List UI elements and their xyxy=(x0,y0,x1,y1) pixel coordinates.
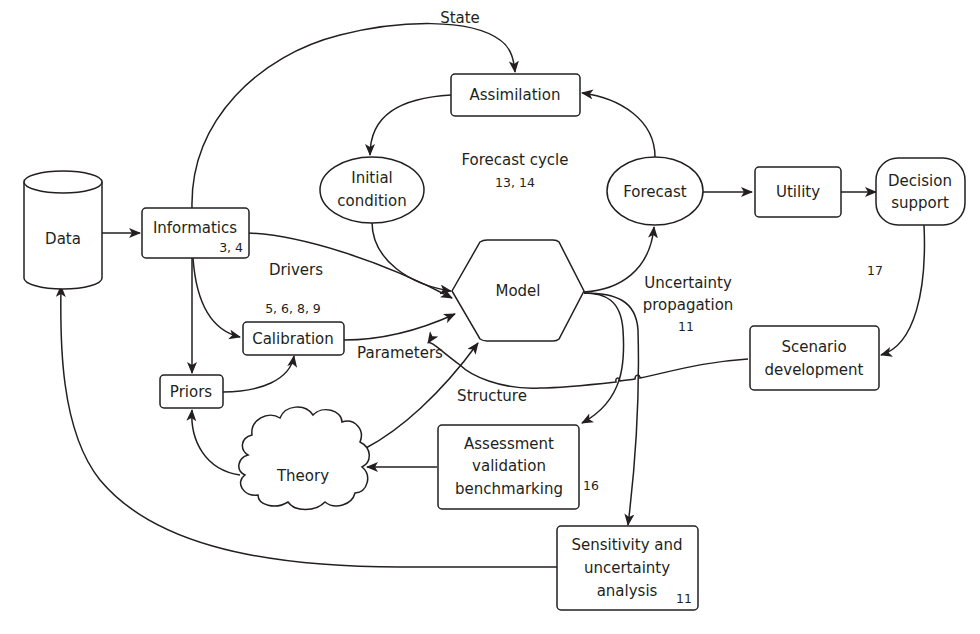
utility-label: Utility xyxy=(776,183,820,201)
calibration-label: Calibration xyxy=(252,330,334,348)
sensitivity-ref: 11 xyxy=(676,591,692,606)
calibration-ref: 5, 6, 8, 9 xyxy=(265,301,321,316)
uncertainty-propagation-line1: Uncertainty xyxy=(644,274,732,292)
node-theory: Theory xyxy=(239,407,369,509)
forecast-cycle-label: Forecast cycle xyxy=(461,151,568,169)
forecast-cycle-ref: 13, 14 xyxy=(495,175,535,190)
edge-model-assessment xyxy=(582,293,624,423)
node-model: Model xyxy=(452,240,584,341)
assessment-line2: validation xyxy=(472,457,546,475)
node-assessment: Assessment validation benchmarking 16 xyxy=(438,425,599,509)
informatics-label: Informatics xyxy=(153,219,237,237)
assessment-line1: Assessment xyxy=(464,435,554,453)
node-priors: Priors xyxy=(160,375,223,408)
sensitivity-line3: analysis xyxy=(597,582,658,600)
forecast-cycle-diagram: Data Informatics 3, 4 5, 6, 8, 9 Calibra… xyxy=(0,0,980,634)
informatics-ref: 3, 4 xyxy=(219,240,243,255)
edge-initial-model xyxy=(372,222,451,291)
model-label: Model xyxy=(495,282,540,300)
decision-support-line2: support xyxy=(891,194,949,212)
assessment-line3: benchmarking xyxy=(455,480,563,498)
uncertainty-propagation-ref: 11 xyxy=(678,319,694,334)
assessment-ref: 16 xyxy=(583,478,599,493)
theory-label: Theory xyxy=(276,467,329,485)
node-forecast: Forecast xyxy=(607,157,703,225)
node-calibration: 5, 6, 8, 9 Calibration xyxy=(243,301,344,355)
forecast-label: Forecast xyxy=(623,183,687,201)
node-decision-support: Decision support xyxy=(876,158,965,225)
edge-forecast-assimilation xyxy=(582,93,655,157)
scenario-line2: development xyxy=(765,361,864,379)
edge-scenario-model xyxy=(428,342,748,388)
node-utility: Utility xyxy=(755,167,841,217)
sensitivity-line1: Sensitivity and xyxy=(571,536,682,554)
data-label: Data xyxy=(45,230,81,248)
decision-support-line1: Decision xyxy=(888,172,952,190)
priors-label: Priors xyxy=(170,383,212,401)
node-sensitivity: Sensitivity and uncertainty analysis 11 xyxy=(557,526,698,610)
edge-assimilation-initial xyxy=(370,95,451,155)
state-label: State xyxy=(440,9,480,27)
node-assimilation: Assimilation xyxy=(451,74,580,116)
drivers-label: Drivers xyxy=(269,261,323,279)
parameters-label: Parameters xyxy=(357,344,443,362)
edge-decision-scenario xyxy=(881,225,924,355)
sensitivity-line2: uncertainty xyxy=(584,559,670,577)
edge-theory-priors xyxy=(192,410,240,475)
node-informatics: Informatics 3, 4 xyxy=(142,208,249,258)
edge-calibration-model xyxy=(344,314,455,340)
structure-label: Structure xyxy=(457,387,527,405)
node-scenario-development: Scenario development xyxy=(750,326,879,390)
uncertainty-propagation-line2: propagation xyxy=(643,296,734,314)
edge-informatics-calibration xyxy=(193,258,240,337)
node-data: Data xyxy=(24,171,102,289)
scenario-line1: Scenario xyxy=(781,338,846,356)
node-initial-condition: Initial condition xyxy=(320,157,424,223)
assimilation-label: Assimilation xyxy=(470,86,561,104)
edge-priors-calibration xyxy=(223,356,294,392)
initial-condition-line1: Initial xyxy=(351,169,393,187)
initial-condition-line2: condition xyxy=(337,192,406,210)
decision-support-ref: 17 xyxy=(867,263,883,278)
